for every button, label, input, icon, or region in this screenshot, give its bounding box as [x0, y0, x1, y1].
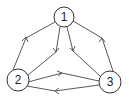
node-3-label: 3 — [107, 75, 114, 89]
edge-2-to-1 — [13, 22, 55, 70]
edge-2-to-3 — [28, 71, 99, 82]
node-1-label: 1 — [61, 10, 68, 24]
graph-diagram: 1 2 3 — [0, 0, 129, 98]
edge-3-to-2 — [27, 85, 99, 94]
edge-3-to-1 — [73, 21, 113, 71]
node-2-label: 2 — [15, 73, 22, 87]
node-3: 3 — [99, 71, 121, 93]
node-1: 1 — [54, 7, 74, 27]
node-2: 2 — [7, 69, 29, 91]
